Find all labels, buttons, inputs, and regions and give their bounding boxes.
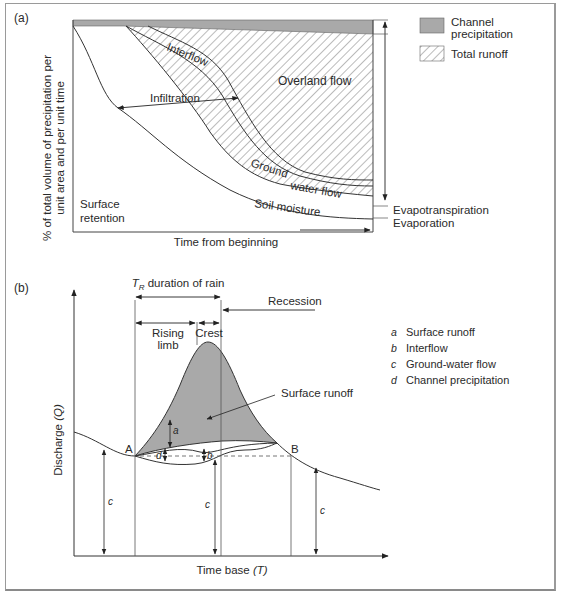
legend-key-b: b bbox=[391, 342, 397, 354]
panel-a-legend: Channel precipitation Total runoff bbox=[420, 16, 513, 61]
legend-swatch-total-runoff bbox=[420, 46, 444, 61]
legend-label-channel-precipitation-2: precipitation bbox=[451, 28, 513, 40]
panel-a-y-axis-label-line1: % of total volume of precipitation per bbox=[41, 55, 53, 241]
panel-a-label: (a) bbox=[14, 11, 29, 25]
point-a-label: A bbox=[125, 443, 133, 455]
panel-a-x-axis-label: Time from beginning bbox=[174, 236, 278, 248]
mark-c-left: c bbox=[108, 496, 113, 507]
legend-key-a: a bbox=[391, 326, 397, 338]
soil-moisture-label: Soil moisture bbox=[254, 197, 321, 218]
surface-runoff-area bbox=[135, 342, 277, 456]
surface-retention-label-1: Surface bbox=[80, 198, 120, 210]
legend-label-ground-water-flow: Ground-water flow bbox=[406, 358, 496, 370]
legend-label-interflow: Interflow bbox=[406, 342, 448, 354]
evapotranspiration-label: Evapotranspiration bbox=[393, 204, 489, 216]
panel-b-label: (b) bbox=[14, 281, 29, 295]
mark-c-right: c bbox=[320, 505, 325, 516]
legend-key-c: c bbox=[391, 358, 397, 370]
recession-label: Recession bbox=[268, 295, 322, 307]
legend-swatch-channel-precipitation bbox=[420, 18, 444, 33]
infiltration-label: Infiltration bbox=[150, 92, 200, 104]
legend-label-total-runoff: Total runoff bbox=[451, 48, 508, 60]
surface-runoff-callout: Surface runoff bbox=[281, 387, 354, 399]
panel-a-y-axis-label-line2: unit area and per unit time bbox=[54, 81, 66, 215]
panel-b-y-axis-label: Discharge (Q) bbox=[52, 404, 64, 476]
rising-limb-label-2: limb bbox=[157, 339, 178, 351]
mark-c-mid: c bbox=[205, 499, 210, 510]
point-b-label: B bbox=[291, 443, 299, 455]
evaporation-label: Evaporation bbox=[393, 217, 454, 229]
panel-b-legend: a Surface runoff b Interflow c Ground-wa… bbox=[391, 326, 509, 386]
mark-b: b bbox=[207, 450, 213, 461]
overland-flow-label: Overland flow bbox=[278, 74, 352, 88]
panel-a: (a) % of total volume of precipitation p… bbox=[14, 11, 513, 248]
panel-b: (b) Discharge (Q) Time base (T) TR durat… bbox=[14, 277, 509, 576]
total-runoff-region bbox=[126, 26, 373, 196]
duration-of-rain-label: TR duration of rain bbox=[132, 277, 225, 292]
mark-d: d bbox=[156, 450, 162, 461]
crest-label: Crest bbox=[195, 327, 223, 339]
rising-limb-label-1: Rising bbox=[152, 327, 184, 339]
legend-label-surface-runoff: Surface runoff bbox=[406, 326, 476, 338]
legend-key-d: d bbox=[391, 374, 398, 386]
panel-b-x-axis-label: Time base (T) bbox=[196, 564, 267, 576]
legend-label-channel-precipitation: Channel precipitation bbox=[406, 374, 509, 386]
legend-label-channel-precipitation-1: Channel bbox=[451, 16, 494, 28]
hydrology-figure: (a) % of total volume of precipitation p… bbox=[0, 0, 562, 594]
surface-retention-label-2: retention bbox=[80, 212, 125, 224]
mark-a: a bbox=[173, 425, 179, 436]
